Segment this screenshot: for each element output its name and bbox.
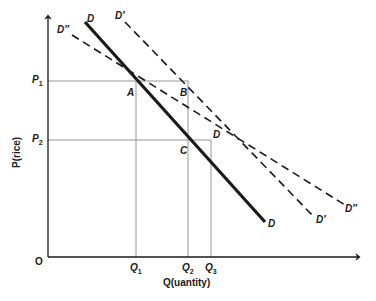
curve-label-d-double-prime-bottom: D″ [345,204,357,214]
y-tick-p2-text: P [32,133,39,144]
y-tick-p1-sub: 1 [39,80,43,87]
y-tick-label-p2: P2 [32,134,43,146]
grid-lines [48,81,211,257]
curve-label-d-bottom: D [268,219,275,229]
y-tick-label-p1: P1 [32,75,43,87]
point-label-a: A [127,88,134,98]
plot-canvas [0,0,376,301]
x-axis-title: Q(uantity) [163,278,210,288]
x-tick-q3-sub: 3 [213,268,217,275]
axes [48,17,358,257]
x-tick-label-q3: Q3 [205,263,217,275]
x-tick-q3-text: Q [205,262,213,273]
x-tick-q2-sub: 2 [190,268,194,275]
point-label-c: C [180,146,187,156]
curve-label-d-top: D [87,14,94,24]
demand-curve-figure: D″ D D′ D D′ D″ A B C D P1 P2 O Q1 Q2 Q3… [0,0,376,301]
origin-label: O [35,257,43,267]
x-tick-q2-text: Q [182,262,190,273]
point-label-b: B [180,88,187,98]
curve-d-prime [125,22,315,218]
curve-label-d-double-prime-top: D″ [57,25,69,35]
x-tick-q1-sub: 1 [138,268,142,275]
curve-label-d-prime-bottom: D′ [316,215,326,225]
curve-label-d-prime-top: D′ [115,11,125,21]
point-label-d: D [213,130,220,140]
curve-d-double-prime [72,35,345,205]
y-axis-title: P(rice) [12,137,22,168]
y-tick-p2-sub: 2 [39,139,43,146]
curve-d [85,22,265,222]
x-tick-q1-text: Q [130,262,138,273]
y-tick-p1-text: P [32,74,39,85]
x-tick-label-q1: Q1 [130,263,142,275]
x-tick-label-q2: Q2 [182,263,194,275]
